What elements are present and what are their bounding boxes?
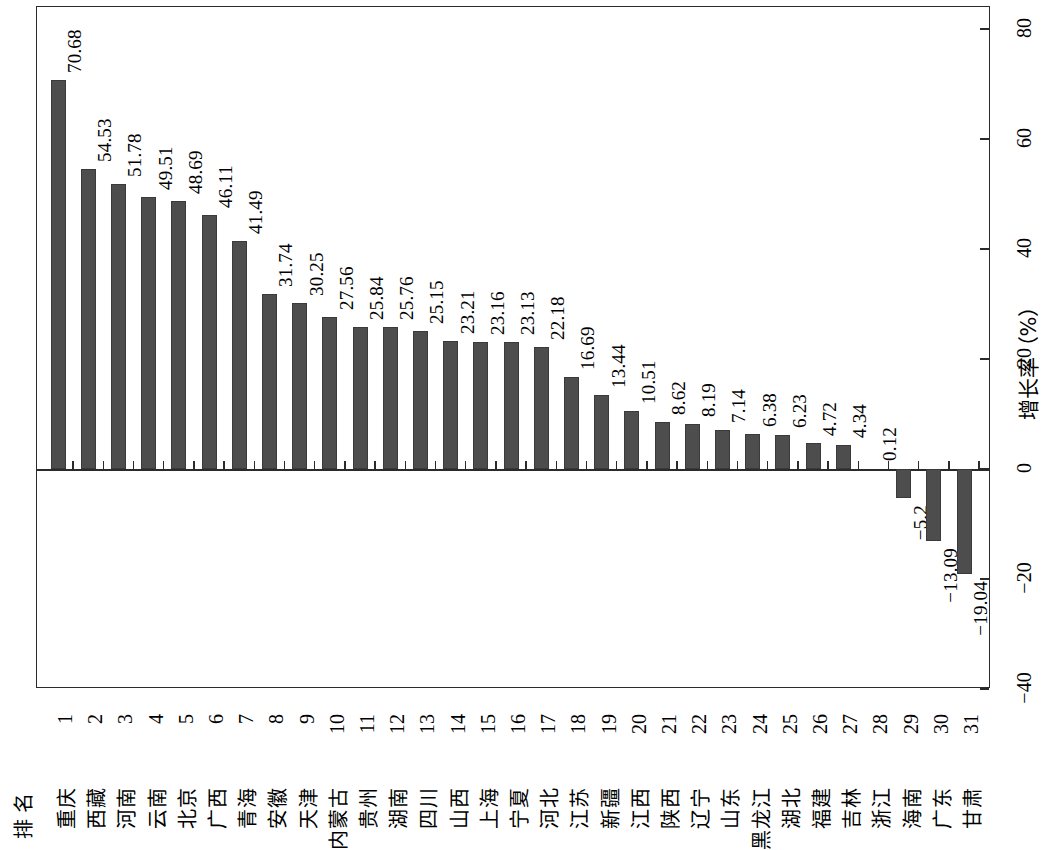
- rank-label: 25: [778, 714, 801, 734]
- bar: [836, 445, 851, 469]
- bar-value-label: 25.15: [427, 280, 446, 324]
- value-axis-tick: [980, 358, 989, 360]
- bar-value-label: 30.25: [307, 252, 326, 296]
- category-label: 广西: [202, 787, 231, 829]
- category-tick: [254, 461, 256, 469]
- category-label: 江苏: [564, 787, 593, 829]
- rank-label: 8: [265, 714, 288, 724]
- rank-label: 20: [627, 714, 650, 734]
- rank-label: 28: [869, 714, 892, 734]
- value-axis-tick: [980, 468, 989, 470]
- bar-value-label: 25.76: [397, 277, 416, 321]
- rank-label: 21: [658, 714, 681, 734]
- category-label: 甘肃: [957, 787, 986, 829]
- bar: [322, 317, 337, 469]
- rank-label: 3: [114, 714, 137, 724]
- category-tick: [676, 461, 678, 469]
- rank-label: 16: [507, 714, 530, 734]
- bar-value-label: 8.62: [669, 381, 688, 415]
- category-tick: [72, 461, 74, 469]
- category-tick: [133, 461, 135, 469]
- category-label: 湖北: [775, 787, 804, 829]
- category-label: 福建: [806, 787, 835, 829]
- bar: [383, 327, 398, 469]
- rank-label: 26: [809, 714, 832, 734]
- rank-label: 2: [84, 714, 107, 724]
- category-tick: [586, 461, 588, 469]
- bar-value-label: 8.19: [699, 383, 718, 417]
- value-axis-tick: [980, 138, 989, 140]
- category-tick: [284, 461, 286, 469]
- rank-label: 11: [356, 714, 379, 733]
- bar: [171, 201, 186, 469]
- rank-label: 10: [325, 714, 348, 734]
- bar-value-label: 48.69: [186, 150, 205, 194]
- rank-label: 1: [54, 714, 77, 724]
- category-label: 河北: [534, 787, 563, 829]
- rank-label: 31: [960, 714, 983, 734]
- category-label: 天津: [292, 787, 321, 829]
- bar-value-label: 49.51: [156, 146, 175, 190]
- bar-value-label: 23.16: [488, 291, 507, 335]
- bar: [957, 469, 972, 574]
- category-label: 上海: [473, 787, 502, 829]
- category-tick: [918, 461, 920, 469]
- category-label: 陕西: [655, 787, 684, 829]
- bar: [504, 342, 519, 469]
- category-tick: [858, 461, 860, 469]
- category-tick: [737, 461, 739, 469]
- rank-label: 4: [144, 714, 167, 724]
- bar: [926, 469, 941, 541]
- category-tick: [646, 461, 648, 469]
- bar: [534, 347, 549, 469]
- category-tick: [827, 461, 829, 469]
- rank-label: 12: [386, 714, 409, 734]
- bar-value-label: 46.11: [216, 165, 235, 208]
- value-axis-tick-label: −40: [1013, 672, 1036, 703]
- rank-label: 7: [235, 714, 258, 724]
- bar-value-label: 16.69: [578, 326, 597, 370]
- category-tick: [193, 461, 195, 469]
- rank-label: 29: [899, 714, 922, 734]
- value-axis-tick: [980, 578, 989, 580]
- bar: [262, 294, 277, 469]
- value-axis-tick-label: −20: [1013, 562, 1036, 593]
- rank-label: 13: [416, 714, 439, 734]
- bar: [775, 435, 790, 469]
- bar: [685, 424, 700, 469]
- category-label: 湖南: [383, 787, 412, 829]
- category-tick: [223, 461, 225, 469]
- value-axis-tick-label: 60: [1013, 128, 1036, 148]
- category-tick: [495, 461, 497, 469]
- value-axis-tick: [980, 28, 989, 30]
- bar: [896, 469, 911, 498]
- category-label: 宁夏: [504, 787, 533, 829]
- bar: [232, 241, 247, 469]
- category-label: 江西: [624, 787, 653, 829]
- category-tick: [374, 461, 376, 469]
- bar-value-label: 25.84: [367, 276, 386, 320]
- bar: [655, 422, 670, 469]
- bar-value-label: 51.78: [125, 133, 144, 177]
- category-tick: [767, 461, 769, 469]
- bar: [51, 80, 66, 469]
- bar-value-label: 27.56: [337, 267, 356, 311]
- bar-value-label: 6.23: [790, 394, 809, 428]
- category-tick: [405, 461, 407, 469]
- category-label: 内蒙古: [322, 787, 351, 850]
- bar: [715, 430, 730, 469]
- bar: [624, 411, 639, 469]
- category-label: 吉林: [836, 787, 865, 829]
- bar: [443, 341, 458, 469]
- rank-label: 22: [688, 714, 711, 734]
- rank-label: 19: [597, 714, 620, 734]
- category-tick: [797, 461, 799, 469]
- bar: [111, 184, 126, 469]
- category-label: 北京: [171, 787, 200, 829]
- category-tick: [314, 461, 316, 469]
- value-axis-tick: [980, 248, 989, 250]
- category-tick: [707, 461, 709, 469]
- category-tick: [163, 461, 165, 469]
- bar-value-label: 23.21: [458, 291, 477, 335]
